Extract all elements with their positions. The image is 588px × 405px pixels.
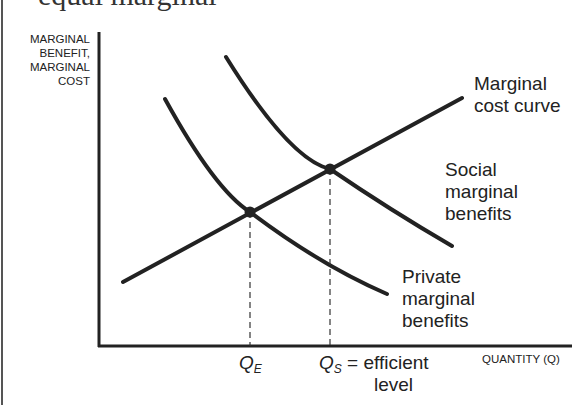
label-line: cost curve bbox=[474, 95, 561, 117]
private-marginal-benefits-label: Private marginal benefits bbox=[402, 266, 475, 332]
y-axis-label-line: BENEFIT, bbox=[8, 46, 90, 60]
y-axis-label-line: COST bbox=[8, 74, 90, 88]
qs-label-line2: level bbox=[374, 374, 413, 396]
label-line: benefits bbox=[445, 203, 518, 225]
qe-label-main: Q bbox=[239, 352, 254, 373]
qs-label-main: Q bbox=[319, 352, 334, 373]
social-marginal-benefits-label: Social marginal benefits bbox=[445, 159, 518, 225]
y-axis-label-line: MARGINAL bbox=[8, 32, 90, 46]
label-line: marginal bbox=[445, 181, 518, 203]
label-line: benefits bbox=[402, 310, 475, 332]
qe-intersection-point bbox=[245, 207, 256, 218]
qs-intersection-point bbox=[325, 164, 336, 175]
y-axis-label-line: MARGINAL bbox=[8, 60, 90, 74]
label-line: marginal bbox=[402, 288, 475, 310]
qe-label-sub: E bbox=[254, 362, 262, 376]
qs-label: QS = efficient bbox=[319, 352, 429, 376]
marginal-cost-label: Marginal cost curve bbox=[474, 73, 561, 117]
qs-label-sub: S bbox=[334, 362, 342, 376]
qe-label: QE bbox=[239, 352, 262, 376]
x-axis-label: QUANTITY (Q) bbox=[482, 353, 560, 365]
marginal-cost-curve bbox=[123, 98, 462, 282]
label-line: Marginal bbox=[474, 73, 561, 95]
y-axis-label: MARGINAL BENEFIT, MARGINAL COST bbox=[8, 32, 90, 88]
label-line: Social bbox=[445, 159, 518, 181]
label-line: Private bbox=[402, 266, 475, 288]
qs-label-suffix: = efficient bbox=[347, 352, 429, 373]
